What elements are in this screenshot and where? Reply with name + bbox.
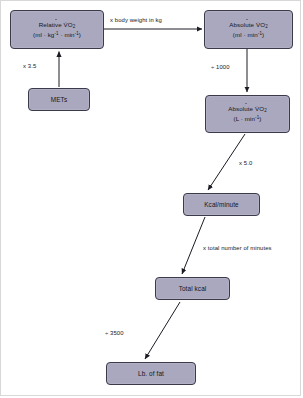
node-relative-vo2-line2: (ml · kg-1 · min-1) bbox=[33, 31, 81, 39]
node-absolute-vo2-ml-line1: Absolute V̇O2 bbox=[229, 21, 267, 30]
node-kcal-minute[interactable]: Kcal/minute bbox=[183, 193, 260, 216]
edge-label-total-kcal-to-lb-of-fat: ÷ 3500 bbox=[105, 330, 124, 336]
arrow-kcal-minute-to-total-kcal bbox=[182, 217, 205, 274]
node-absolute-vo2-l[interactable]: Absolute V̇O2 (L · min-1) bbox=[205, 95, 290, 133]
arrow-total-kcal-to-lb-of-fat bbox=[145, 302, 180, 359]
node-absolute-vo2-l-line1: Absolute V̇O2 bbox=[228, 105, 266, 114]
node-absolute-vo2-l-line2: (L · min-1) bbox=[234, 115, 262, 123]
node-relative-vo2[interactable]: Relative V̇O2 (ml · kg-1 · min-1) bbox=[10, 10, 104, 49]
edge-label-kcal-minute-to-total-kcal: x total number of minutes bbox=[203, 245, 272, 251]
node-mets-label: METs bbox=[51, 96, 67, 104]
node-absolute-vo2-ml-line2: (ml · min-1) bbox=[233, 31, 264, 39]
flowchart-canvas: Relative V̇O2 (ml · kg-1 · min-1) Absolu… bbox=[0, 0, 303, 398]
edge-label-relative-to-absolute-vo2-ml: x body weight in kg bbox=[110, 17, 162, 23]
node-lb-of-fat-label: Lb. of fat bbox=[138, 370, 164, 378]
node-kcal-minute-label: Kcal/minute bbox=[204, 201, 239, 209]
node-mets[interactable]: METs bbox=[28, 88, 90, 111]
edge-label-absolute-ml-to-absolute-l: ÷ 1000 bbox=[211, 64, 230, 70]
node-total-kcal[interactable]: Total kcal bbox=[155, 277, 230, 300]
node-absolute-vo2-ml[interactable]: Absolute V̇O2 (ml · min-1) bbox=[204, 10, 293, 49]
node-total-kcal-label: Total kcal bbox=[179, 285, 207, 293]
node-lb-of-fat[interactable]: Lb. of fat bbox=[106, 362, 196, 385]
edge-label-mets-to-relative-vo2: x 3.5 bbox=[23, 63, 36, 69]
node-relative-vo2-line1: Relative V̇O2 bbox=[39, 21, 76, 30]
edge-label-absolute-l-to-kcal-minute: x 5.0 bbox=[239, 160, 252, 166]
